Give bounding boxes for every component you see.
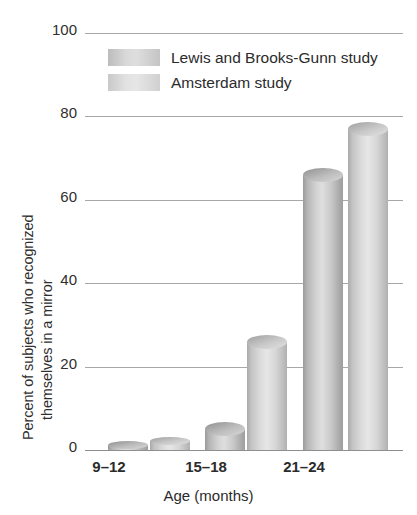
bar-body [247,342,287,450]
legend: Lewis and Brooks-Gunn study Amsterdam st… [108,45,378,95]
bar-cap [108,441,148,449]
bar-15-18-amsterdam [247,342,287,450]
x-tick-label-9-12: 9–12 [64,458,154,475]
bar-21-24-lewis [303,175,343,450]
legend-item-amsterdam: Amsterdam study [108,70,378,95]
bar-cap [247,335,287,349]
legend-swatch-icon [108,74,160,91]
gridline-0-baseline [85,450,403,451]
y-axis-title-line-2: themselves in a mirror [39,280,55,420]
y-tick-label-20: 20 [31,356,77,371]
bar-cap [348,122,388,136]
plot-area [85,33,403,450]
gridline-100 [85,33,403,34]
bar-body [348,129,388,450]
y-tick-label-0: 0 [31,439,77,454]
y-tick-label-40: 40 [31,272,77,287]
y-axis-title: Percent of subjects who recognized thems… [0,0,56,455]
bar-9-12-lewis [108,445,148,450]
bar-21-24-amsterdam [348,129,388,450]
legend-label: Amsterdam study [171,74,292,92]
x-tick-label-21-24: 21–24 [259,458,349,475]
gridline-80 [85,116,403,117]
y-tick-label-80: 80 [31,105,77,120]
bar-15-18-lewis [205,429,245,450]
bar-9-12-amsterdam [150,441,190,450]
x-tick-label-15-18: 15–18 [161,458,251,475]
y-tick-label-100: 100 [31,22,77,37]
legend-swatch-icon [108,49,160,66]
bar-cap [303,168,343,182]
bar-chart: Percent of subjects who recognized thems… [0,0,417,515]
legend-label: Lewis and Brooks-Gunn study [171,49,378,67]
y-axis-title-line-1: Percent of subjects who recognized [20,214,36,440]
bar-cap [150,437,190,445]
y-tick-label-60: 60 [31,189,77,204]
x-axis-title: Age (months) [0,487,417,504]
bar-body [303,175,343,450]
legend-item-lewis: Lewis and Brooks-Gunn study [108,45,378,70]
bar-cap [205,422,245,436]
